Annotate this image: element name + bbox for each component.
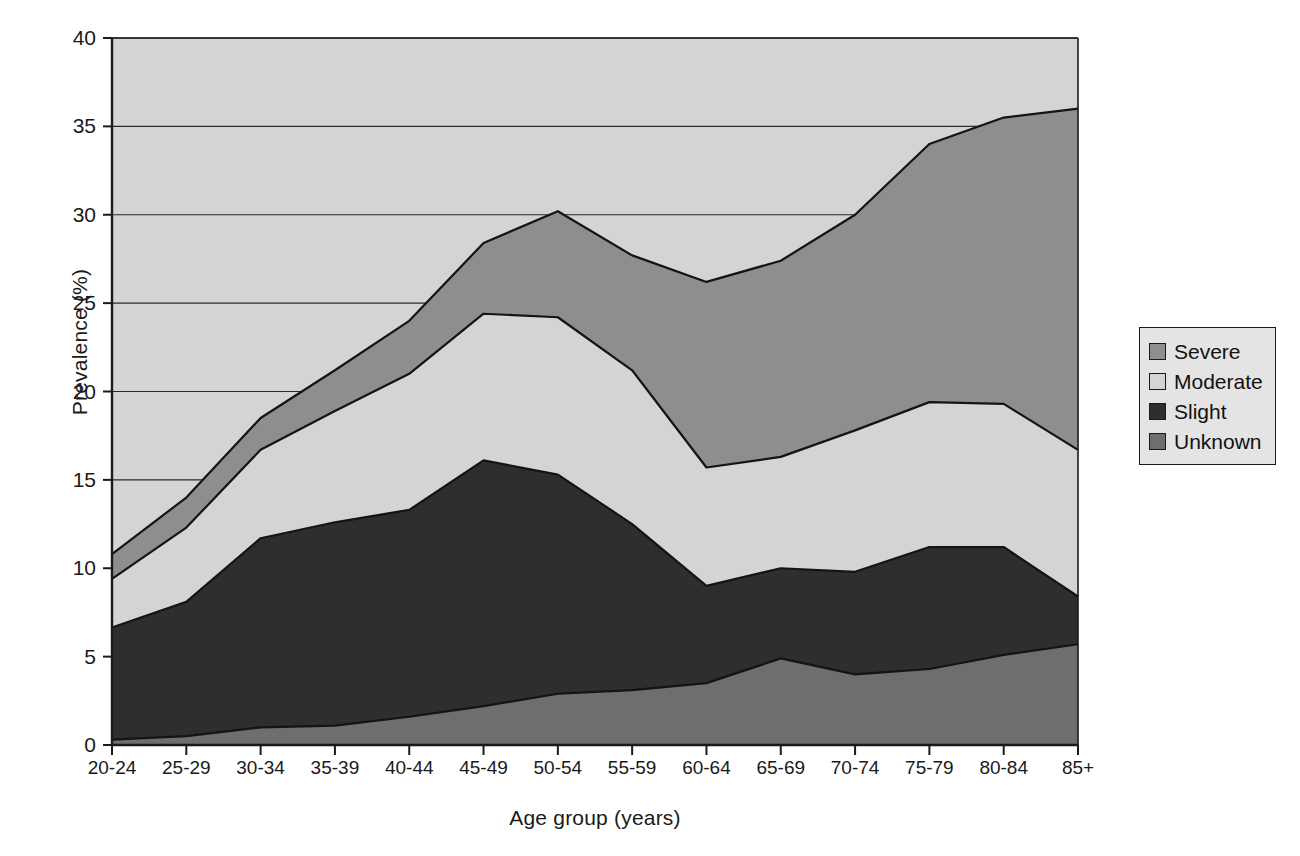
x-tick-label: 35-39 (311, 757, 360, 779)
x-tick-label: 65-69 (756, 757, 805, 779)
legend-swatch-icon (1149, 373, 1166, 390)
x-tick-label: 75-79 (905, 757, 954, 779)
x-tick-label: 20-24 (88, 757, 137, 779)
legend-swatch-icon (1149, 343, 1166, 360)
x-tick-label: 60-64 (682, 757, 731, 779)
x-tick-label: 50-54 (534, 757, 583, 779)
stacked-area-chart: Prevalence (%) Age group (years) 0510152… (0, 0, 1300, 856)
plot-area (0, 0, 1300, 856)
x-axis-tick-labels: 20-2425-2930-3435-3940-4445-4950-5455-59… (0, 757, 1300, 791)
x-tick-label: 40-44 (385, 757, 434, 779)
x-tick-label: 45-49 (459, 757, 508, 779)
x-tick-label: 80-84 (979, 757, 1028, 779)
legend-item-label: Moderate (1174, 371, 1263, 392)
legend-item-label: Slight (1174, 401, 1227, 422)
legend-item-unknown[interactable]: Unknown (1149, 426, 1263, 456)
x-tick-label: 85+ (1062, 757, 1094, 779)
legend-swatch-icon (1149, 403, 1166, 420)
legend-item-severe[interactable]: Severe (1149, 336, 1263, 366)
x-tick-label: 55-59 (608, 757, 657, 779)
x-tick-label: 25-29 (162, 757, 211, 779)
x-tick-label: 30-34 (236, 757, 285, 779)
legend-item-label: Severe (1174, 341, 1241, 362)
x-tick-label: 70-74 (831, 757, 880, 779)
legend-item-label: Unknown (1174, 431, 1262, 452)
legend-item-moderate[interactable]: Moderate (1149, 366, 1263, 396)
chart-legend: SevereModerateSlightUnknown (1139, 327, 1276, 465)
legend-swatch-icon (1149, 433, 1166, 450)
legend-item-slight[interactable]: Slight (1149, 396, 1263, 426)
